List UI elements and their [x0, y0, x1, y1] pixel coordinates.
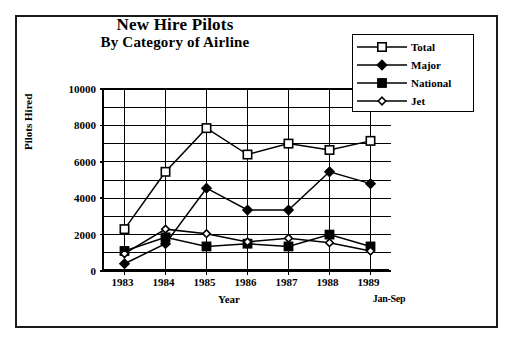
legend-item-jet[interactable]: Jet	[353, 92, 473, 110]
x-axis-tick-labels: 1983198419851986198719881989	[102, 276, 389, 292]
legend-label: Total	[411, 41, 435, 53]
legend-label: Major	[411, 59, 441, 71]
plot-area	[102, 89, 389, 271]
y-axis-tick-label: 4000	[74, 192, 96, 204]
data-series-layer	[104, 89, 391, 271]
y-axis-tick-label: 6000	[74, 156, 96, 168]
x-axis-note: Jan-Sep	[373, 293, 405, 304]
x-axis-tick-label: 1985	[194, 276, 216, 288]
chart-page: New Hire Pilots By Category of Airline P…	[0, 0, 513, 344]
legend-item-major[interactable]: Major	[353, 56, 473, 74]
y-axis-tick-labels: 0200040006000800010000	[48, 89, 96, 271]
legend-label: National	[411, 77, 451, 89]
y-axis-tick-label: 0	[91, 265, 97, 277]
y-axis-title: Pilots Hired	[22, 94, 34, 150]
legend-marker-icon	[353, 92, 411, 110]
series-line-major	[125, 172, 371, 264]
y-axis-tick-label: 8000	[74, 119, 96, 131]
page-title: New Hire Pilots	[0, 15, 350, 34]
legend-marker-icon	[353, 74, 411, 92]
x-axis-tick-label: 1986	[235, 276, 257, 288]
legend-item-total[interactable]: Total	[353, 38, 473, 56]
chart-legend: TotalMajorNationalJet	[352, 34, 474, 112]
x-axis-title: Year	[218, 293, 240, 305]
x-axis-tick-label: 1984	[153, 276, 175, 288]
page-subtitle: By Category of Airline	[0, 34, 350, 51]
chart-title-block: New Hire Pilots By Category of Airline	[0, 15, 350, 51]
y-axis-tick-label: 10000	[69, 83, 97, 95]
legend-marker-icon	[353, 56, 411, 74]
x-axis-tick-label: 1983	[112, 276, 134, 288]
legend-item-national[interactable]: National	[353, 74, 473, 92]
y-axis-tick-label: 2000	[74, 229, 96, 241]
x-axis-tick-label: 1987	[276, 276, 298, 288]
x-axis-tick-label: 1989	[358, 276, 380, 288]
legend-marker-icon	[353, 38, 411, 56]
legend-label: Jet	[411, 95, 425, 107]
x-axis-tick-label: 1988	[317, 276, 339, 288]
